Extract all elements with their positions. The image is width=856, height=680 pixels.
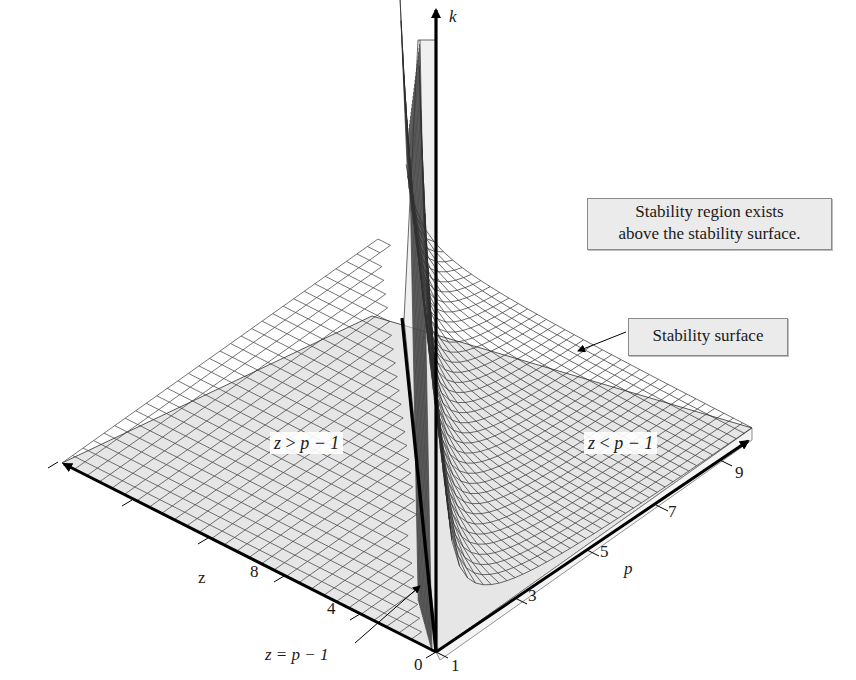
callout-stability-region-line1: Stability region exists (588, 201, 831, 223)
region-label-z-less: z < p − 1 (584, 432, 657, 454)
z-tick-4: 8 (250, 563, 259, 580)
z-tick-0: 0 (414, 656, 423, 673)
callout-stability-surface: Stability surface (628, 318, 788, 356)
p-tick-3: 3 (528, 587, 537, 604)
region-left-rhs: p − 1 (300, 433, 339, 453)
region-left-op: > (286, 433, 296, 453)
callout-stability-region-line2: above the stability surface. (588, 223, 831, 245)
k-axis-label: k (449, 8, 457, 25)
callout-stability-surface-text: Stability surface (653, 326, 764, 345)
p-tick-5: 5 (600, 543, 609, 560)
region-left-lhs: z (274, 433, 281, 453)
region-right-op: < (600, 433, 610, 453)
region-label-z-greater: z > p − 1 (270, 432, 343, 454)
callout-ridge-label: z = p − 1 (265, 646, 329, 663)
p-tick-1: 1 (451, 657, 460, 674)
region-right-rhs: p − 1 (614, 433, 653, 453)
p-axis-label: p (624, 560, 633, 577)
region-right-lhs: z (588, 433, 595, 453)
z-axis-label: z (198, 569, 206, 586)
z-tick-2: 4 (327, 600, 336, 617)
p-tick-7: 7 (668, 503, 677, 520)
p-tick-9: 9 (735, 464, 744, 481)
callout-stability-region: Stability region exists above the stabil… (587, 198, 832, 250)
